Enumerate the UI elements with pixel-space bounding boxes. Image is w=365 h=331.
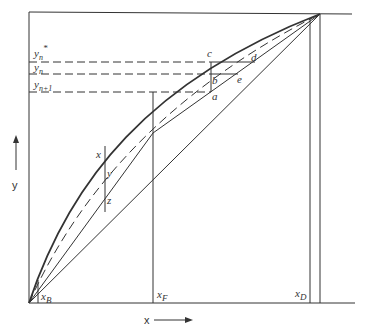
point-b-label: b: [212, 74, 218, 86]
point-c-label: c: [207, 47, 212, 59]
xf-label: xF: [156, 288, 168, 303]
point-e-label: e: [237, 73, 242, 85]
top-frame-line: [29, 12, 352, 14]
stripping-operating-line: [29, 133, 153, 303]
xd-label: xD: [294, 287, 307, 302]
point-a-label: a: [212, 90, 218, 102]
yn1-label: yn+1: [33, 78, 52, 93]
point-d-label: d: [251, 51, 257, 63]
point-z-label: z: [106, 194, 112, 206]
x-arrowhead-icon: [185, 317, 193, 323]
yn-star-label: yn*: [33, 43, 48, 62]
x-axis-label: x: [144, 314, 150, 326]
y-axis-label: y: [12, 179, 18, 191]
mccabe-thiele-diagram: yn* yn yn+1 c d b e a x y z xB xF xD y x: [0, 0, 365, 331]
point-y-label: y: [106, 167, 112, 179]
diagonal-line: [29, 14, 320, 303]
y-arrowhead-icon: [13, 135, 19, 143]
point-x-label: x: [95, 148, 101, 160]
